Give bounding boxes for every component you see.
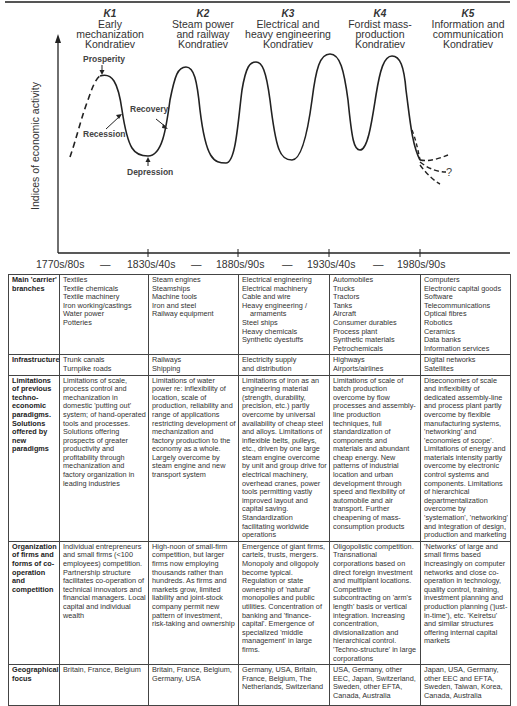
row-header: Geographical focus: [9, 665, 60, 706]
date-label: 1830s/40s: [127, 258, 175, 270]
table-cell-k5: Computers Electronic capital goods Softw…: [421, 275, 511, 355]
table-row-organization: Organization of firms and forms of co-op…: [9, 541, 511, 664]
table-row-infrastructure: Infrastructure Trunk canals Turnpike roa…: [9, 355, 511, 375]
table-row-carrier-branches: Main 'carrier' branches Textiles Textile…: [9, 275, 511, 355]
list-item: Satellites: [424, 365, 508, 374]
table-cell-k2: Steam engines Steamships Machine tools I…: [149, 275, 239, 355]
table-cell-k2: High-noon of small-firm competition, but…: [149, 541, 239, 664]
row-header: Limitations of previous techno-economic …: [9, 375, 60, 541]
table-cell-k1: Textiles Textile chemicals Textile machi…: [60, 275, 149, 355]
period-dates: 1770s/80s — 1830s/40s — 1880s/90s — 1930…: [0, 258, 517, 272]
date-separator: —: [282, 258, 293, 270]
list-item: Airports/airlines: [333, 365, 418, 374]
y-axis-arrow-icon: [55, 34, 61, 43]
row-header: Infrastructure: [9, 355, 60, 375]
date-label: 1770s/80s: [36, 258, 84, 270]
table-cell-k2: Britain, France, Belgium, Germany, USA: [149, 665, 239, 706]
list-item: Turnpike roads: [63, 365, 146, 374]
table-row-geographical-focus: Geographical focus Britain, France, Belg…: [9, 665, 511, 706]
phase-label-unknown: ?: [446, 166, 452, 178]
phase-label-prosperity: Prosperity: [83, 54, 125, 64]
row-header: Main 'carrier' branches: [9, 275, 60, 355]
wave-curves: [0, 0, 517, 260]
date-label: 1930s/40s: [307, 258, 355, 270]
table-cell-k4: USA, Germany, other EEC, Japan, Switzerl…: [330, 665, 421, 706]
table-cell-k5: 'Networks' of large and small firms base…: [421, 541, 511, 664]
date-label: 1980s/90s: [397, 258, 445, 270]
table-cell-k4: Highways Airports/airlines: [330, 355, 421, 375]
date-separator: —: [373, 258, 384, 270]
phase-label-recession: Recession: [83, 129, 126, 139]
table-cell-k4: Automobiles Trucks Tractors Tanks Aircra…: [330, 275, 421, 355]
table-cell-k3: Electrical engineering Electrical machin…: [239, 275, 330, 355]
list-item: Petrochemicals: [333, 345, 418, 354]
table-row-limitations: Limitations of previous techno-economic …: [9, 375, 511, 541]
list-item: Shipping: [152, 365, 236, 374]
list-item: Potteries: [63, 319, 146, 328]
table-cell-k1: Trunk canals Turnpike roads: [60, 355, 149, 375]
table-cell-k5: Japan, USA, Germany, other EEC and EFTA,…: [421, 665, 511, 706]
table-cell-k4: Oligopolistic competition. Transnational…: [330, 541, 421, 664]
table-cell-k5: Diseconomies of scale and inflexibility …: [421, 375, 511, 541]
table-cell-k3: Emergence of giant firms, cartels, trust…: [239, 541, 330, 664]
phase-label-recovery: Recovery: [130, 104, 168, 114]
table-cell-k1: Limitations of scale, process control an…: [60, 375, 149, 541]
date-label: 1880s/90s: [216, 258, 264, 270]
table-cell-k1: Individual entrepreneurs and small firms…: [60, 541, 149, 664]
phase-label-depression: Depression: [127, 167, 173, 177]
date-separator: —: [100, 258, 111, 270]
list-item: Information services: [424, 345, 508, 354]
row-header: Organization of firms and forms of co-op…: [9, 541, 60, 664]
table-cell-k2: Railways Shipping: [149, 355, 239, 375]
list-item: Railway equipment: [152, 310, 236, 319]
table-cell-k2: Limitations of water power re: inflexibi…: [149, 375, 239, 541]
table-cell-k4: Limitations of scale of batch production…: [330, 375, 421, 541]
table-cell-k3: Electricity supply and distribution: [239, 355, 330, 375]
list-item: Synthetic dyestuffs: [242, 336, 327, 345]
table-cell-k3: Limitations of iron as an engineering ma…: [239, 375, 330, 541]
paradigm-table: Main 'carrier' branches Textiles Textile…: [8, 274, 511, 706]
table-cell-k5: Digital networks Satellites: [421, 355, 511, 375]
table-cell-k1: Britain, France, Belgium: [60, 665, 149, 706]
list-item: and distribution: [242, 365, 327, 374]
table-cell-k3: Germany, USA, Britain, France, Belgium, …: [239, 665, 330, 706]
date-separator: —: [191, 258, 202, 270]
kondratiev-wave-chart: K1 Early mechanization Kondratiev K2 Ste…: [0, 0, 517, 260]
